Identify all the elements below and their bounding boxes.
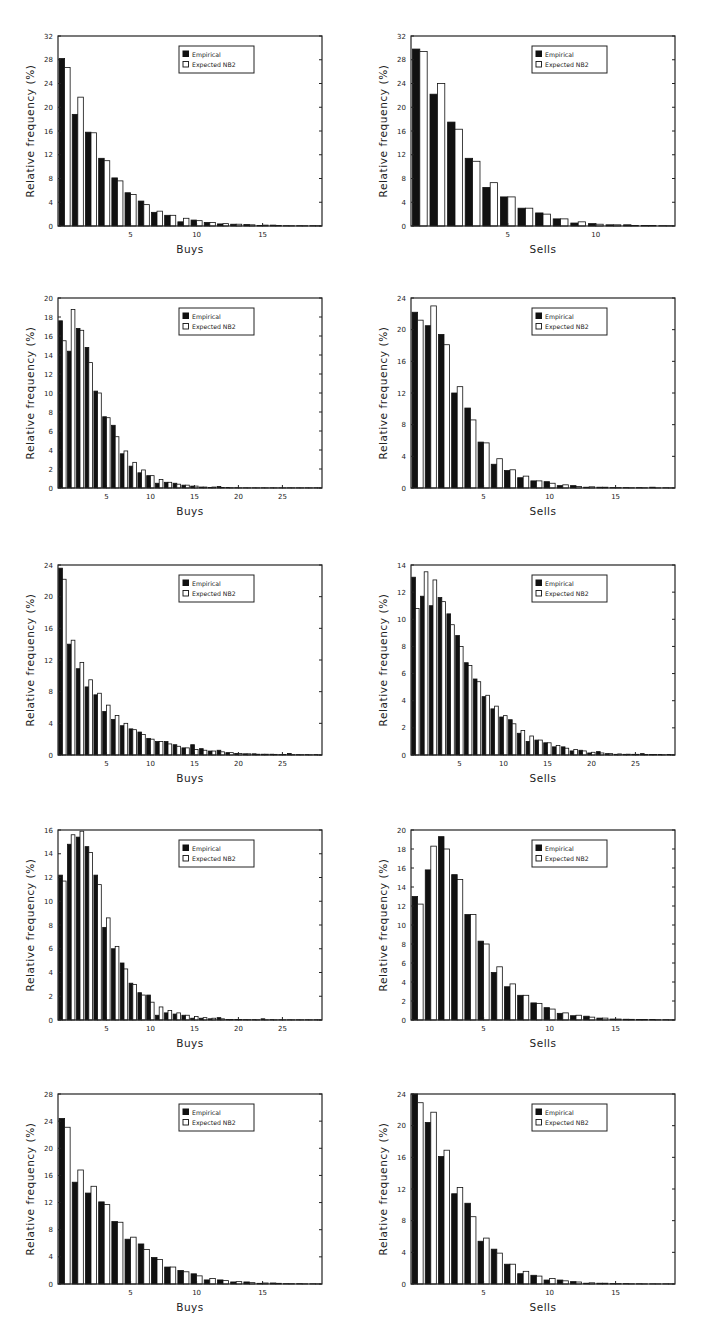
bar-expected	[106, 418, 110, 488]
x-tick-label: 25	[278, 1025, 287, 1033]
chart-buys-3: 04812162024510152025BuysRelative frequen…	[0, 529, 353, 795]
bar-empirical	[120, 963, 124, 1020]
legend-label-expected: Expected NB2	[192, 590, 236, 598]
bar-empirical	[112, 178, 118, 226]
bar-empirical	[531, 481, 537, 488]
bar-expected	[473, 161, 480, 226]
y-tick-label: 0	[402, 1281, 406, 1289]
bar-expected	[536, 1276, 542, 1284]
legend-swatch-expected	[536, 62, 542, 68]
bar-empirical	[570, 1016, 576, 1020]
bar-empirical	[421, 596, 425, 755]
x-tick-label: 10	[192, 1289, 201, 1297]
y-tick-label: 8	[49, 1226, 53, 1234]
legend-swatch-expected	[183, 856, 189, 862]
bar-empirical	[425, 326, 431, 488]
bar-empirical	[518, 995, 524, 1020]
bar-empirical	[59, 1118, 65, 1284]
bar-empirical	[478, 1241, 484, 1284]
bar-expected	[159, 1007, 163, 1020]
legend-label-expected: Expected NB2	[545, 323, 589, 331]
y-tick-label: 14	[397, 562, 406, 570]
bar-expected	[437, 84, 444, 227]
legend-label-empirical: Empirical	[192, 1109, 221, 1117]
bar-empirical	[103, 711, 107, 755]
y-tick-label: 16	[44, 333, 53, 341]
y-tick-label: 10	[44, 390, 53, 398]
bar-expected	[168, 1011, 172, 1021]
x-axis-label: Sells	[530, 505, 557, 517]
bar-expected	[168, 482, 172, 488]
bar-empirical	[500, 717, 504, 755]
bar-expected	[131, 195, 137, 226]
x-tick-label: 5	[104, 760, 108, 768]
legend-label-expected: Expected NB2	[545, 590, 589, 598]
y-tick-label: 20	[397, 1122, 406, 1130]
bar-empirical	[129, 466, 133, 488]
bar-empirical	[68, 644, 72, 755]
bar-empirical	[72, 114, 78, 226]
bar-expected	[490, 183, 497, 226]
bar-expected	[433, 580, 437, 755]
bar-empirical	[500, 197, 507, 226]
bar-empirical	[68, 844, 72, 1020]
bar-empirical	[412, 49, 419, 226]
x-tick-label: 5	[506, 231, 510, 239]
bar-expected	[497, 459, 503, 488]
bar-expected	[80, 831, 84, 1020]
y-tick-label: 24	[397, 295, 406, 303]
bar-empirical	[526, 741, 530, 755]
bar-expected	[170, 1267, 176, 1284]
bar-expected	[144, 1249, 150, 1284]
bar-expected	[115, 715, 119, 755]
x-tick-label: 10	[545, 1025, 554, 1033]
bar-expected	[183, 218, 189, 226]
bar-expected	[168, 744, 172, 755]
legend-label-expected: Expected NB2	[545, 61, 589, 69]
bar-expected	[415, 608, 419, 755]
y-tick-label: 4	[402, 199, 407, 207]
bar-empirical	[99, 158, 105, 226]
x-tick-label: 10	[146, 760, 155, 768]
bar-expected	[142, 470, 146, 488]
y-tick-label: 0	[402, 752, 406, 760]
bar-empirical	[147, 995, 151, 1020]
bar-empirical	[504, 987, 510, 1020]
bar-expected	[98, 693, 102, 755]
x-tick-label: 25	[278, 760, 287, 768]
bar-expected	[583, 751, 587, 755]
bar-expected	[444, 345, 450, 488]
bar-empirical	[200, 749, 204, 755]
bar-expected	[150, 739, 154, 755]
bar-empirical	[164, 482, 168, 488]
y-tick-label: 16	[44, 827, 53, 835]
bar-empirical	[147, 476, 151, 488]
bar-expected	[523, 995, 529, 1020]
legend-label-empirical: Empirical	[545, 845, 574, 853]
bar-empirical	[151, 1258, 157, 1284]
bar-empirical	[491, 464, 497, 488]
bar-empirical	[59, 875, 63, 1020]
legend: EmpiricalExpected NB2	[179, 308, 254, 335]
bar-empirical	[561, 747, 565, 755]
y-tick-label: 20	[44, 295, 53, 303]
bar-expected	[80, 662, 84, 755]
bar-expected	[536, 1003, 542, 1020]
x-tick-label: 15	[611, 1289, 620, 1297]
y-tick-label: 16	[397, 128, 406, 136]
y-tick-label: 6	[49, 945, 54, 953]
bar-empirical	[478, 941, 484, 1020]
bar-expected	[117, 181, 123, 226]
bar-empirical	[156, 742, 160, 755]
bar-expected	[117, 1222, 123, 1284]
y-axis-label: Relative frequency (%)	[24, 593, 36, 726]
bar-empirical	[85, 132, 91, 226]
legend-swatch-empirical	[183, 1109, 189, 1115]
bar-expected	[159, 479, 163, 488]
bar-empirical	[129, 983, 133, 1020]
legend-label-empirical: Empirical	[545, 580, 574, 588]
x-tick-label: 20	[234, 493, 243, 501]
bar-empirical	[178, 222, 184, 226]
x-tick-label: 5	[481, 1289, 485, 1297]
chart-svg: 048121620242832510SellsRelative frequenc…	[353, 0, 706, 262]
